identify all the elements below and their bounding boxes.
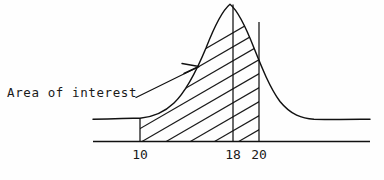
hatch-line — [60, 64, 300, 180]
hatch-line — [60, 8, 300, 147]
hatch-line — [60, 106, 300, 180]
bell-curve-diagram: 10 18 20 Area of interest — [0, 0, 384, 180]
hatch-line — [60, 0, 300, 133]
figure-canvas: 10 18 20 Area of interest — [0, 0, 384, 180]
axis-tick-label-18: 18 — [225, 147, 241, 162]
axis-tick-label-20: 20 — [251, 147, 267, 162]
axis-tick-label-10: 10 — [132, 147, 148, 162]
annotation-label: Area of interest — [7, 85, 137, 100]
